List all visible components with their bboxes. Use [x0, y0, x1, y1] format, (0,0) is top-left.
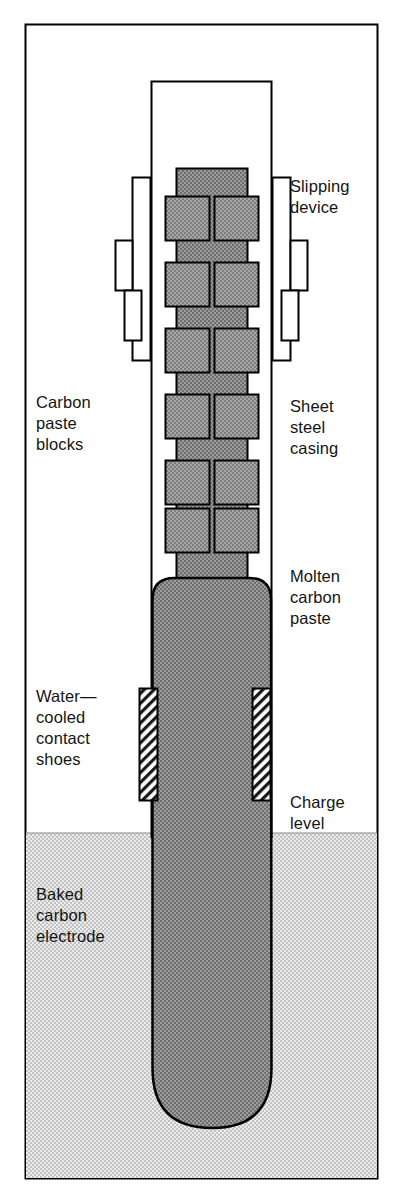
paste-block [166, 461, 210, 505]
label-water-cooled-contact-shoes: Water— cooled contact shoes [36, 686, 97, 770]
label-baked-carbon-electrode: Baked carbon electrode [36, 884, 105, 947]
paste-block [166, 395, 210, 439]
molten-carbon-paste-body [153, 578, 272, 1128]
paste-block [215, 263, 259, 307]
paste-block [215, 329, 259, 373]
paste-block [166, 197, 210, 241]
slipping-bracket-left-arm [116, 241, 133, 291]
label-molten-carbon-paste: Molten carbon paste [290, 566, 341, 629]
paste-block [215, 197, 259, 241]
paste-block [166, 329, 210, 373]
paste-block [215, 509, 259, 553]
paste-block [166, 509, 210, 553]
electrode-diagram: Slipping device Sheet steel casing Molte… [0, 0, 404, 1202]
contact-shoe-left [140, 689, 158, 801]
paste-block [166, 263, 210, 307]
label-sheet-steel-casing: Sheet steel casing [290, 396, 338, 459]
label-slipping-device: Slipping device [290, 176, 350, 218]
label-carbon-paste-blocks: Carbon paste blocks [36, 392, 91, 455]
paste-block [215, 461, 259, 505]
slipping-bracket-right-arm [291, 241, 308, 291]
contact-shoe-right [253, 689, 271, 801]
slipping-bracket-right-arm2 [282, 291, 299, 341]
slipping-bracket-left-arm2 [125, 291, 142, 341]
label-charge-level: Charge level [290, 792, 345, 834]
paste-block [215, 395, 259, 439]
